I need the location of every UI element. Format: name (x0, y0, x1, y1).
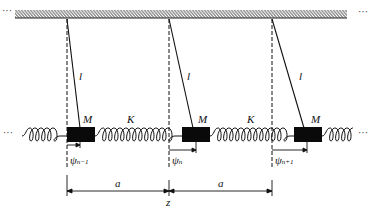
length-label-2: l (187, 71, 190, 82)
spacing-label-2: a (218, 178, 224, 189)
displacement-label-n-minus-1: ψn−1 (70, 155, 89, 166)
length-label-3: l (299, 71, 302, 82)
mass-label-3: M (311, 114, 320, 125)
spacing-label-1: a (115, 178, 121, 189)
pendulum-strings (67, 19, 304, 128)
ceiling (15, 10, 347, 18)
displacement-label-n-plus-1: ψn+1 (275, 155, 294, 166)
mass-n (182, 127, 210, 142)
ellipsis-spring-left: ··· (3, 128, 13, 138)
ellipsis-spring-right: ··· (358, 128, 368, 138)
z-axis-label: z (166, 197, 170, 208)
mass-n-minus-1 (67, 127, 95, 142)
ellipsis-top-right: ··· (358, 7, 368, 17)
mass-n-plus-1 (294, 127, 322, 142)
spring-label-2: K (247, 114, 254, 125)
mass-label-2: M (198, 114, 207, 125)
length-label-1: l (79, 71, 82, 82)
mass-label-1: M (83, 114, 92, 125)
diagram-canvas (0, 0, 378, 209)
ellipsis-top-left: ··· (2, 6, 12, 16)
spring-label-1: K (127, 114, 134, 125)
displacement-label-n: ψn (172, 155, 182, 166)
spacing-dimension (67, 175, 272, 196)
equilibrium-lines (67, 19, 272, 168)
